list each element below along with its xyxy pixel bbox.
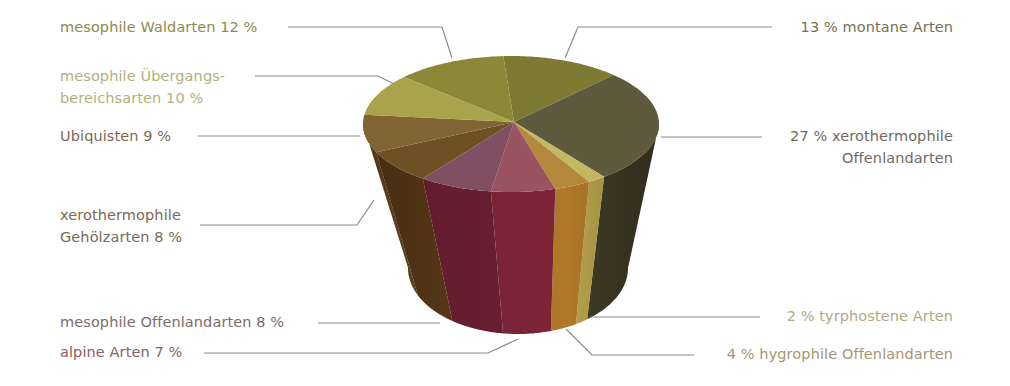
label-alpine-arten: alpine Arten 7 %: [60, 341, 182, 363]
leader-montane: [565, 27, 772, 58]
label-mesophile-waldarten: mesophile Waldarten 12 %: [60, 16, 257, 38]
pie-top-face: [363, 56, 659, 192]
label-mesophile-offenlandarten: mesophile Offenlandarten 8 %: [60, 311, 284, 333]
leader-alpine: [204, 339, 518, 353]
label-hygrophile-offenlandarten: 4 % hygrophile Offenlandarten: [727, 343, 953, 365]
label-line-2: Gehölzarten 8 %: [60, 226, 182, 248]
leader-uebergang: [255, 76, 394, 84]
label-xerothermophile-gehoelzarten: xerothermophile Gehölzarten 8 %: [60, 204, 182, 248]
label-line-1: 27 % xerothermophile: [790, 125, 953, 147]
leader-hygro: [566, 329, 694, 355]
label-mesophile-uebergangsbereichsarten: mesophile Übergangs- bereichsarten 10 %: [60, 65, 225, 109]
label-line-2: Offenlandarten: [790, 147, 953, 169]
leader-waldarten: [288, 27, 452, 58]
label-line-1: mesophile Übergangs-: [60, 65, 225, 87]
label-xerothermophile-offenlandarten: 27 % xerothermophile Offenlandarten: [790, 125, 953, 169]
label-tyrphostene-arten: 2 % tyrphostene Arten: [787, 305, 953, 327]
label-line-2: bereichsarten 10 %: [60, 87, 225, 109]
leader-gehoelz: [200, 200, 374, 225]
label-montane-arten: 13 % montane Arten: [801, 16, 953, 38]
label-ubiquisten: Ubiquisten 9 %: [60, 125, 171, 147]
label-line-1: xerothermophile: [60, 204, 182, 226]
